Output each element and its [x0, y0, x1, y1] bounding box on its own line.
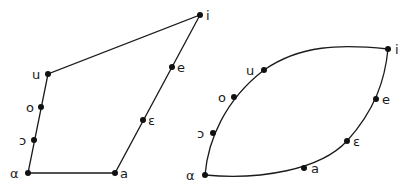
vowel-label: ε	[148, 113, 155, 128]
vowel-point	[261, 67, 267, 73]
vowel-label: α	[186, 168, 195, 183]
vowel-label: α	[10, 166, 19, 181]
vowel-point	[31, 137, 37, 143]
vowel-point	[197, 12, 203, 18]
vowel-label: e	[177, 60, 185, 75]
vowel-label: i	[206, 8, 210, 23]
vowel-point	[140, 117, 146, 123]
vowel-label: u	[32, 67, 40, 82]
vowel-label: ɔ	[19, 133, 26, 148]
quadrilateral-outline	[28, 15, 200, 173]
vowel-label: i	[395, 42, 399, 57]
vowel-point	[45, 71, 51, 77]
vowel-point	[301, 165, 307, 171]
vowel-ellipse-curved: ieεaαɔou	[186, 42, 399, 183]
vowel-label: o	[218, 90, 226, 105]
vowel-point	[38, 104, 44, 110]
vowel-label: e	[382, 92, 390, 107]
vowel-point	[112, 170, 118, 176]
vowel-label: ɔ	[197, 126, 204, 141]
vowel-label: u	[246, 63, 254, 78]
vowel-quadrilateral-angular: ieεaαɔou	[10, 8, 210, 181]
vowel-diagrams: ieεaαɔou ieεaαɔou	[0, 0, 408, 188]
ellipse-outline-upper	[205, 47, 388, 175]
vowel-point	[210, 130, 216, 136]
vowel-point	[169, 64, 175, 70]
vowel-point	[202, 172, 208, 178]
vowel-label: ε	[353, 134, 360, 149]
vowel-label: a	[120, 166, 128, 181]
vowel-point	[385, 46, 391, 52]
vowel-point	[344, 138, 350, 144]
vowel-label: a	[311, 161, 319, 176]
vowel-label: o	[26, 100, 34, 115]
vowel-point	[231, 94, 237, 100]
ellipse-outline-lower	[205, 49, 388, 176]
vowel-point	[373, 96, 379, 102]
vowel-point	[25, 170, 31, 176]
